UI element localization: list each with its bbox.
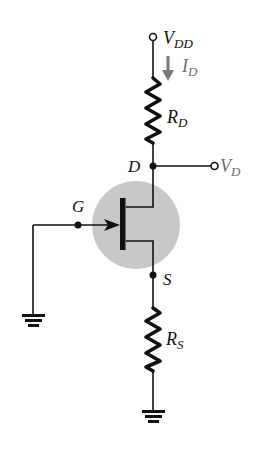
rd-resistor-icon (146, 78, 160, 143)
gate-ground-icon (22, 314, 45, 327)
drain-current-arrow-icon (162, 56, 174, 81)
drain-label: D (127, 157, 141, 176)
drain-current-label: ID (181, 56, 198, 79)
circuit-diagram: VDD ID RD D VD G (0, 0, 256, 450)
rs-label: RS (165, 329, 184, 352)
rs-resistor-icon (146, 308, 160, 371)
vdd-terminal (150, 34, 157, 79)
gate-label: G (72, 197, 84, 216)
source-ground-icon (142, 410, 165, 423)
vd-terminal (211, 163, 218, 170)
gate-node (75, 222, 82, 229)
vd-label: VD (220, 156, 241, 179)
source-label: S (163, 270, 172, 289)
vdd-label: VDD (163, 28, 193, 51)
rd-label: RD (166, 107, 188, 130)
